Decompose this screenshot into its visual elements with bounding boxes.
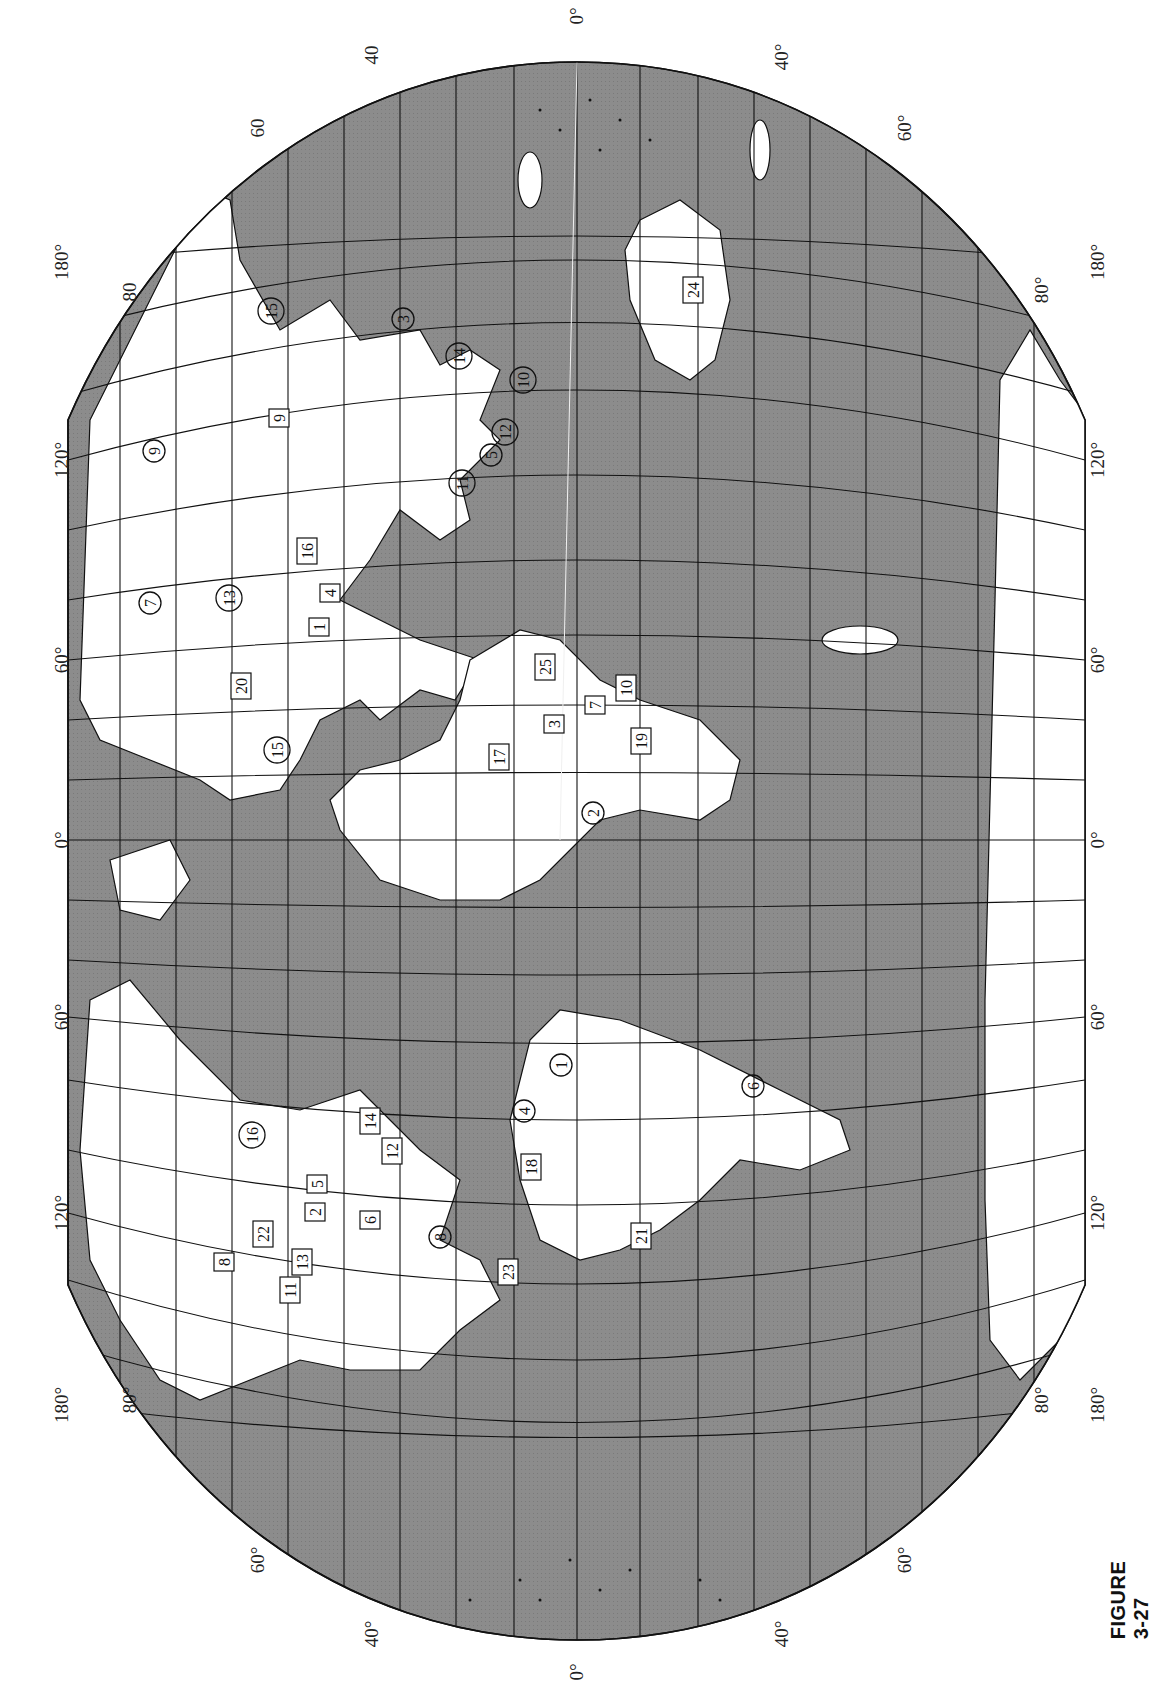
land-island [822, 626, 898, 654]
svg-text:15: 15 [269, 742, 286, 758]
svg-text:4: 4 [516, 1107, 533, 1115]
axis-label-left: 0° [51, 831, 73, 848]
svg-text:3: 3 [546, 720, 563, 728]
land-antarctica [985, 330, 1090, 1380]
axis-label-bottom: 80° [119, 1387, 141, 1414]
axis-label-top: 80° [1031, 277, 1053, 304]
axis-label-right: 60° [1087, 647, 1109, 674]
svg-text:20: 20 [233, 678, 250, 694]
axis-label-bottom: 80° [1031, 1387, 1053, 1414]
axis-label-top: 0° [566, 7, 588, 24]
axis-label-right: 120° [1087, 1195, 1109, 1231]
svg-text:3: 3 [395, 315, 412, 323]
boxed-site-marker: 23 [498, 1259, 518, 1285]
boxed-site-marker: 20 [231, 673, 251, 699]
paleogeographic-map: 249164120172571031914125262281311182321 … [0, 0, 1154, 1692]
svg-text:9: 9 [146, 447, 163, 455]
axis-label-left: 120° [51, 442, 73, 478]
boxed-site-marker: 10 [616, 675, 636, 701]
boxed-site-marker: 18 [521, 1154, 541, 1180]
axis-label-top: 60 [247, 119, 269, 138]
axis-label-right: 180° [1087, 1387, 1109, 1423]
svg-text:11: 11 [454, 475, 471, 490]
svg-text:12: 12 [497, 424, 514, 440]
boxed-site-marker: 4 [320, 584, 340, 602]
svg-text:18: 18 [523, 1159, 540, 1175]
svg-text:12: 12 [384, 1143, 401, 1159]
boxed-site-marker: 17 [489, 744, 509, 770]
svg-text:7: 7 [142, 599, 159, 607]
axis-label-top: 40° [771, 44, 793, 71]
svg-text:13: 13 [221, 590, 238, 606]
boxed-site-marker: 19 [631, 728, 651, 754]
svg-text:7: 7 [587, 701, 604, 709]
axis-label-right: 180° [1087, 244, 1109, 280]
svg-text:14: 14 [451, 348, 468, 364]
svg-text:13: 13 [294, 1254, 311, 1270]
boxed-site-marker: 24 [683, 277, 703, 303]
svg-text:22: 22 [255, 1226, 272, 1242]
svg-text:5: 5 [309, 1180, 326, 1188]
axis-label-left: 180° [51, 244, 73, 280]
svg-text:9: 9 [271, 414, 288, 422]
svg-text:10: 10 [618, 680, 635, 696]
figure-caption: FIGURE 3-27 [1107, 1561, 1153, 1640]
axis-label-top: 40 [361, 46, 383, 65]
boxed-site-marker: 2 [305, 1203, 325, 1221]
axis-label-right: 120° [1087, 442, 1109, 478]
svg-text:16: 16 [244, 1127, 261, 1143]
boxed-site-marker: 22 [253, 1221, 273, 1247]
svg-text:24: 24 [685, 282, 702, 298]
svg-text:21: 21 [633, 1228, 650, 1244]
svg-text:4: 4 [322, 589, 339, 597]
boxed-site-marker: 3 [544, 715, 564, 733]
axis-label-bottom: 60° [247, 1547, 269, 1574]
boxed-site-marker: 16 [297, 538, 317, 564]
axis-label-bottom: 40° [771, 1621, 793, 1648]
boxed-site-marker: 1 [309, 618, 329, 636]
svg-text:1: 1 [553, 1061, 570, 1069]
axis-label-left: 60° [51, 1004, 73, 1031]
boxed-site-marker: 5 [307, 1175, 327, 1193]
svg-text:8: 8 [432, 1233, 449, 1241]
axis-label-top: 80 [119, 283, 141, 302]
svg-text:2: 2 [307, 1208, 324, 1216]
boxed-site-marker: 12 [382, 1138, 402, 1164]
boxed-site-marker: 7 [585, 696, 605, 714]
axis-label-bottom: 60° [894, 1547, 916, 1574]
svg-text:6: 6 [362, 1216, 379, 1224]
land-island [518, 152, 542, 208]
svg-text:5: 5 [483, 451, 500, 459]
boxed-site-marker: 8 [214, 1253, 234, 1271]
axis-label-bottom: 0° [566, 1663, 588, 1680]
boxed-site-marker: 21 [631, 1223, 651, 1249]
land-island [750, 120, 770, 180]
axis-label-left: 120° [51, 1195, 73, 1231]
svg-text:2: 2 [585, 809, 602, 817]
boxed-site-marker: 13 [292, 1249, 312, 1275]
svg-text:10: 10 [515, 372, 532, 388]
svg-text:16: 16 [299, 543, 316, 559]
svg-text:15: 15 [263, 303, 280, 319]
axis-label-top: 60° [894, 115, 916, 142]
boxed-site-marker: 14 [360, 1108, 380, 1134]
boxed-site-marker: 9 [269, 409, 289, 427]
axis-label-right: 60° [1087, 1004, 1109, 1031]
boxed-site-marker: 6 [360, 1211, 380, 1229]
axis-label-left: 180° [51, 1387, 73, 1423]
svg-text:14: 14 [362, 1113, 379, 1129]
axis-label-bottom: 40° [361, 1621, 383, 1648]
svg-text:17: 17 [491, 749, 508, 765]
svg-text:25: 25 [537, 659, 554, 675]
svg-text:1: 1 [311, 623, 328, 631]
svg-text:23: 23 [500, 1264, 517, 1280]
boxed-site-marker: 25 [535, 654, 555, 680]
svg-text:19: 19 [633, 733, 650, 749]
boxed-site-marker: 11 [280, 1277, 300, 1303]
axis-label-right: 0° [1087, 831, 1109, 848]
axis-label-left: 60° [51, 647, 73, 674]
svg-text:6: 6 [745, 1082, 762, 1090]
svg-text:8: 8 [216, 1258, 233, 1266]
svg-text:11: 11 [282, 1282, 299, 1297]
